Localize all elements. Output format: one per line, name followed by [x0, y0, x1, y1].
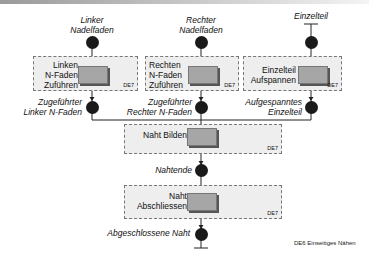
activity-linken-n-faden-zufuehren[interactable]: Linken N-Faden Zuführen DE7 [33, 56, 138, 91]
activity-label-line: Aufspannen [246, 75, 296, 85]
state-nahtende: Nahtende [110, 165, 192, 175]
activity-naht-abschliessen[interactable]: Naht Abschliessen DE7 [124, 185, 282, 219]
activity-label-line: N-Faden [149, 70, 191, 80]
activity-tag: DE7 [224, 82, 235, 88]
state-zugefuehrter-linker-n-faden: Zugeführter Linker N-Faden [0, 97, 82, 117]
activity-naht-bilden[interactable]: Naht Bilden DE7 [124, 124, 282, 154]
input-label-line2: Nadelfaden [52, 25, 132, 35]
state-node-zugefuehrter-linker [86, 101, 99, 114]
activity-tag: DE7 [327, 82, 338, 88]
activity-einzelteil-aufspannen[interactable]: Einzelteil Aufspannen DE7 [243, 56, 342, 91]
state-node-rechter-nadelfaden [195, 36, 208, 49]
input-label-line1: Linker [52, 15, 132, 25]
state-label-line2: Einzelteil [220, 107, 302, 117]
state-abgeschlossene-naht: Abgeschlossene Naht [60, 228, 190, 238]
state-label-line1: Zugeführter [0, 97, 82, 107]
input-linker-nadelfaden: Linker Nadelfaden [52, 15, 132, 35]
activity-block [188, 66, 218, 84]
input-rechter-nadelfaden: Rechter Nadelfaden [161, 15, 241, 35]
activity-label: Einzelteil Aufspannen [246, 65, 296, 85]
input-label-line2: Nadelfaden [161, 25, 241, 35]
activity-label-line: Naht Bilden [127, 130, 187, 140]
activity-label: Naht Abschliessen [127, 191, 187, 211]
input-label-line1: Einzelteil [271, 11, 351, 21]
state-label-line2: Linker N-Faden [0, 107, 82, 117]
state-label-line2: Rechter N-Faden [110, 107, 192, 117]
state-node-einzelteil [305, 36, 318, 49]
state-node-linker-nadelfaden [86, 36, 99, 49]
footer-caption: DE6 Einseitiges Nähen [294, 240, 356, 246]
activity-label-line: Zuführen [149, 80, 191, 90]
activity-tag: DE7 [267, 145, 278, 151]
state-node-abgeschlossene-naht [195, 228, 208, 241]
activity-label-line: N-Faden [36, 70, 78, 80]
activity-rechten-n-faden-zufuehren[interactable]: Rechten N-Faden Zuführen DE7 [145, 56, 239, 91]
activity-label-line: Linken [36, 60, 78, 70]
state-node-nahtende [195, 164, 208, 177]
state-label-line1: Nahtende [110, 165, 192, 175]
activity-block [298, 66, 328, 84]
activity-block [187, 193, 217, 211]
activity-label-line: Einzelteil [246, 65, 296, 75]
state-label-line1: Zugeführter [110, 97, 192, 107]
state-label-line1: Aufgespanntes [220, 97, 302, 107]
state-label-line1: Abgeschlossene Naht [60, 228, 190, 238]
state-node-zugefuehrter-rechter [195, 101, 208, 114]
input-einzelteil: Einzelteil [271, 11, 351, 21]
activity-label-line: Zuführen [36, 80, 78, 90]
activity-tag: DE7 [123, 82, 134, 88]
input-label-line1: Rechter [161, 15, 241, 25]
activity-label: Rechten N-Faden Zuführen [149, 60, 191, 90]
activity-label-line: Naht [127, 191, 187, 201]
state-aufgespanntes-einzelteil: Aufgespanntes Einzelteil [220, 97, 302, 117]
state-zugefuehrter-rechter-n-faden: Zugeführter Rechter N-Faden [110, 97, 192, 117]
activity-label: Naht Bilden [127, 130, 187, 140]
activity-label: Linken N-Faden Zuführen [36, 60, 78, 90]
activity-tag: DE7 [267, 210, 278, 216]
activity-label-line: Rechten [149, 60, 191, 70]
activity-label-line: Abschliessen [127, 201, 187, 211]
activity-block [78, 66, 108, 84]
state-node-aufgespanntes [305, 101, 318, 114]
activity-block [187, 128, 217, 146]
